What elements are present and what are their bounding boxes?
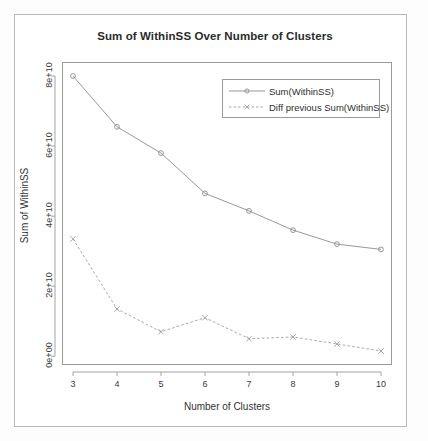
x-axis-tick-label: 5 [149, 379, 173, 389]
y-axis-tick-label: 6e+10 [44, 125, 54, 165]
screenshot-root: Sum of WithinSS Over Number of Clusters … [0, 0, 428, 441]
legend-key-line-dashed-x [227, 100, 267, 114]
y-axis-tick-label: 2e+10 [44, 265, 54, 305]
legend-label: Sum(WithinSS) [269, 86, 334, 97]
x-axis-tick-label: 4 [105, 379, 129, 389]
legend-item-diff-previous: Diff previous Sum(WithinSS) [227, 99, 389, 115]
legend-item-sum-withinss: Sum(WithinSS) [227, 83, 334, 99]
x-axis-tick-label: 9 [325, 379, 349, 389]
x-axis-tick-label: 6 [193, 379, 217, 389]
y-axis-title: Sum of WithinSS [19, 146, 30, 266]
x-axis-title: Number of Clusters [62, 401, 392, 412]
y-axis-tick-label: 8e+10 [44, 55, 54, 95]
chart-legend: Sum(WithinSS) Diff previous Sum(WithinSS… [222, 79, 380, 118]
chart-figure: Sum of WithinSS Over Number of Clusters … [0, 0, 428, 441]
x-axis-tick-label: 3 [61, 379, 85, 389]
x-axis-tick-label: 8 [281, 379, 305, 389]
legend-label: Diff previous Sum(WithinSS) [269, 102, 389, 113]
y-axis-tick-label: 0e+00 [44, 335, 54, 375]
x-axis-tick-label: 7 [237, 379, 261, 389]
y-axis-tick-label: 4e+10 [44, 195, 54, 235]
legend-key-line-solid-circle [227, 84, 267, 98]
chart-title: Sum of WithinSS Over Number of Clusters [40, 30, 390, 42]
x-axis-tick-label: 10 [369, 379, 393, 389]
